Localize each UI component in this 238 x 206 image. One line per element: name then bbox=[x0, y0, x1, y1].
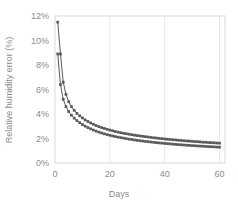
data-point-marker bbox=[103, 133, 106, 136]
data-point-marker bbox=[89, 127, 92, 130]
data-point-marker bbox=[92, 123, 95, 126]
chart-container: 0%2%4%6%8%10%12% 0204060 Days Relative h… bbox=[0, 0, 238, 206]
data-point-marker bbox=[95, 124, 98, 127]
data-point-marker bbox=[207, 141, 210, 144]
y-tick-label-4%: 4% bbox=[36, 109, 49, 119]
data-point-marker bbox=[95, 130, 98, 133]
data-point-marker bbox=[119, 136, 122, 139]
data-point-marker bbox=[174, 139, 177, 142]
data-point-marker bbox=[202, 141, 205, 144]
data-point-marker bbox=[73, 109, 76, 112]
data-point-marker bbox=[98, 125, 101, 128]
data-point-marker bbox=[215, 146, 218, 149]
data-point-marker bbox=[191, 140, 194, 143]
data-point-marker bbox=[100, 132, 103, 135]
data-point-marker bbox=[158, 137, 161, 140]
data-point-marker bbox=[188, 140, 191, 143]
data-point-marker bbox=[185, 140, 188, 143]
data-point-marker bbox=[169, 138, 172, 141]
data-point-marker bbox=[111, 129, 114, 132]
y-tick-label-2%: 2% bbox=[36, 134, 49, 144]
data-point-marker bbox=[81, 123, 84, 126]
data-point-marker bbox=[108, 129, 111, 132]
data-point-marker bbox=[163, 138, 166, 141]
x-tick-label-60: 60 bbox=[215, 169, 225, 179]
chart-background bbox=[0, 0, 238, 206]
data-point-marker bbox=[213, 141, 216, 144]
data-point-marker bbox=[67, 110, 70, 113]
data-point-marker bbox=[125, 137, 128, 140]
data-point-marker bbox=[78, 121, 81, 124]
data-point-marker bbox=[166, 142, 169, 145]
data-point-marker bbox=[122, 137, 125, 140]
data-point-marker bbox=[158, 142, 161, 145]
data-point-marker bbox=[199, 145, 202, 148]
data-point-marker bbox=[98, 131, 101, 134]
data-point-marker bbox=[136, 139, 139, 142]
y-tick-label-8%: 8% bbox=[36, 60, 49, 70]
data-point-marker bbox=[177, 143, 180, 146]
data-point-marker bbox=[62, 81, 65, 84]
data-point-marker bbox=[183, 139, 186, 142]
data-point-marker bbox=[59, 53, 62, 56]
data-point-marker bbox=[161, 142, 164, 145]
y-tick-label-6%: 6% bbox=[36, 85, 49, 95]
data-point-marker bbox=[70, 105, 73, 108]
data-point-marker bbox=[196, 140, 199, 143]
data-point-marker bbox=[199, 141, 202, 144]
data-point-marker bbox=[193, 140, 196, 143]
data-point-marker bbox=[166, 138, 169, 141]
data-point-marker bbox=[204, 141, 207, 144]
data-point-marker bbox=[106, 133, 109, 136]
data-point-marker bbox=[155, 141, 158, 144]
data-point-marker bbox=[106, 128, 109, 131]
y-axis-title: Relative humidity error (%) bbox=[4, 37, 14, 144]
data-point-marker bbox=[133, 134, 136, 137]
data-point-marker bbox=[128, 133, 131, 136]
data-point-marker bbox=[161, 137, 164, 140]
data-point-marker bbox=[117, 136, 120, 139]
x-tick-label-20: 20 bbox=[105, 169, 115, 179]
data-point-marker bbox=[125, 132, 128, 135]
y-tick-label-0%: 0% bbox=[36, 158, 49, 168]
data-point-marker bbox=[65, 93, 68, 96]
humidity-error-line-chart: 0%2%4%6%8%10%12% 0204060 Days Relative h… bbox=[0, 0, 238, 206]
data-point-marker bbox=[130, 138, 133, 141]
data-point-marker bbox=[213, 145, 216, 148]
data-point-marker bbox=[78, 114, 81, 117]
data-point-marker bbox=[103, 127, 106, 130]
data-point-marker bbox=[155, 137, 158, 140]
data-point-marker bbox=[130, 133, 133, 136]
data-point-marker bbox=[152, 136, 155, 139]
data-point-marker bbox=[185, 144, 188, 147]
data-point-marker bbox=[163, 142, 166, 145]
data-point-marker bbox=[141, 135, 144, 138]
data-point-marker bbox=[133, 139, 136, 142]
data-point-marker bbox=[114, 130, 117, 133]
x-tick-label-40: 40 bbox=[160, 169, 170, 179]
data-point-marker bbox=[180, 139, 183, 142]
data-point-marker bbox=[56, 21, 59, 24]
data-point-marker bbox=[202, 145, 205, 148]
data-point-marker bbox=[111, 135, 114, 138]
data-point-marker bbox=[150, 136, 153, 139]
data-point-marker bbox=[139, 135, 142, 138]
data-point-marker bbox=[114, 135, 117, 138]
data-point-marker bbox=[147, 140, 150, 143]
data-point-marker bbox=[117, 131, 120, 134]
data-point-marker bbox=[84, 119, 87, 122]
data-point-marker bbox=[150, 141, 153, 144]
data-point-marker bbox=[65, 105, 68, 108]
data-point-marker bbox=[81, 117, 84, 120]
data-point-marker bbox=[196, 145, 199, 148]
data-point-marker bbox=[180, 143, 183, 146]
data-point-marker bbox=[128, 138, 131, 141]
x-axis-title: Days bbox=[109, 189, 130, 199]
data-point-marker bbox=[122, 132, 125, 135]
data-point-marker bbox=[59, 83, 62, 86]
data-point-marker bbox=[141, 140, 144, 143]
data-point-marker bbox=[89, 122, 92, 125]
data-point-marker bbox=[172, 138, 175, 141]
data-point-marker bbox=[62, 98, 65, 101]
data-point-marker bbox=[108, 134, 111, 137]
